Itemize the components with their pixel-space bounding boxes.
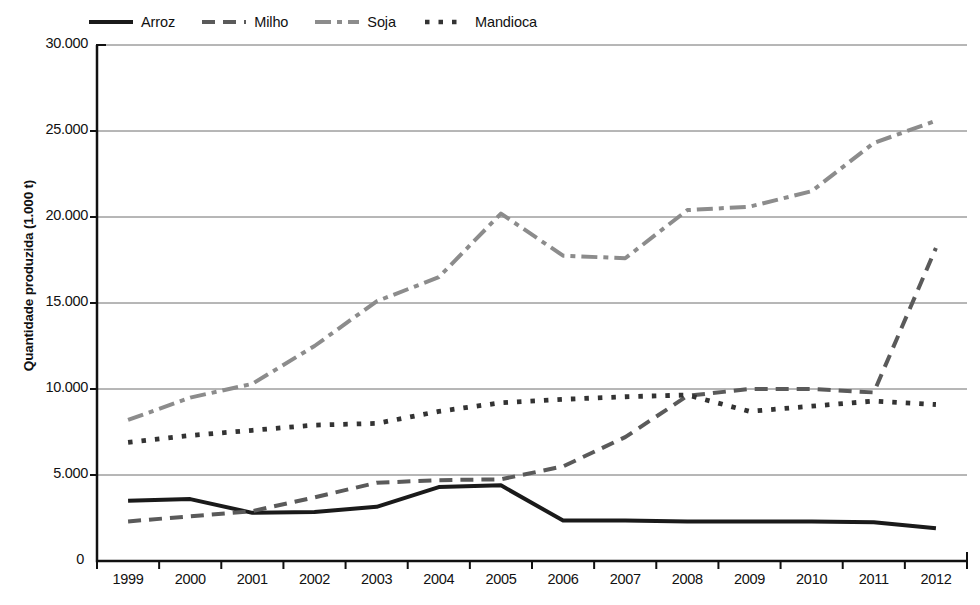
series-line-milho [128,248,936,521]
series-line-soja [128,121,936,420]
x-tick-label: 2001 [222,571,282,587]
x-tick-label: 2011 [844,571,904,587]
x-tick-label: 2006 [533,571,593,587]
x-tick-label: 1999 [98,571,158,587]
line-chart: Arroz Milho Soja Mandioca Quantidade pro… [0,0,980,605]
series-line-mandioca [128,395,936,442]
x-tick-label: 2004 [409,571,469,587]
plot-area [0,0,980,605]
x-tick-label: 2012 [906,571,966,587]
x-tick-label: 2003 [347,571,407,587]
x-tick-label: 2000 [160,571,220,587]
x-tick-label: 2008 [657,571,717,587]
x-tick-label: 2005 [471,571,531,587]
x-tick-label: 2009 [720,571,780,587]
x-tick-label: 2010 [782,571,842,587]
series-line-arroz [128,485,936,528]
x-tick-label: 2002 [285,571,345,587]
x-tick-label: 2007 [595,571,655,587]
